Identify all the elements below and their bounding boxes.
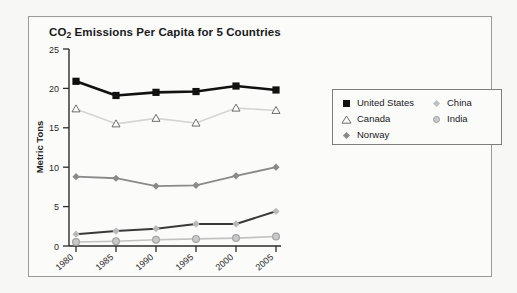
legend-item-india[interactable]: India — [431, 111, 472, 126]
x-tick-label-1980: 1980 — [54, 252, 76, 273]
data-point — [232, 220, 239, 227]
legend-item-united-states[interactable]: United States — [341, 95, 414, 110]
x-axis-ticks — [76, 246, 276, 252]
data-point — [112, 175, 119, 182]
data-point — [152, 89, 159, 96]
series-line — [76, 81, 276, 95]
series-line — [76, 237, 276, 243]
data-point — [152, 183, 159, 190]
x-axis-tick-labels: 1980 1985 1990 1995 2000 2005 — [54, 252, 276, 273]
data-point — [152, 225, 159, 232]
data-point — [153, 236, 160, 243]
y-tick-label-0: 0 — [54, 242, 59, 252]
data-point — [192, 220, 199, 227]
data-point — [233, 235, 240, 242]
x-tick-label-1985: 1985 — [94, 252, 116, 273]
legend-label-china: China — [447, 98, 472, 108]
y-axis-ticks — [63, 49, 69, 246]
x-tick-label-1990: 1990 — [134, 252, 156, 273]
legend-item-canada[interactable]: Canada — [341, 111, 414, 126]
y-tick-label-10: 10 — [49, 163, 59, 173]
data-point — [113, 238, 120, 245]
legend-label-norway: Norway — [357, 130, 389, 140]
ringed-circle-icon — [431, 113, 443, 125]
y-tick-label-15: 15 — [49, 123, 59, 133]
series-united-states — [72, 78, 279, 99]
data-point — [272, 208, 279, 215]
chart-legend: United States Canada — [332, 89, 502, 145]
diamond-icon-norway — [341, 129, 353, 141]
data-point — [232, 82, 239, 89]
data-point — [73, 239, 80, 246]
chart-card: CO2 Emissions Per Capita for 5 Countries… — [28, 16, 492, 277]
x-tick-label-1995: 1995 — [174, 252, 196, 273]
y-axis-title: Metric Tons — [34, 121, 45, 174]
y-tick-label-25: 25 — [49, 45, 59, 55]
data-point — [72, 78, 79, 85]
y-tick-label-5: 5 — [54, 202, 59, 212]
legend-item-china[interactable]: China — [431, 95, 472, 110]
y-axis-tick-labels: 0 5 10 15 20 25 — [49, 45, 59, 252]
data-point — [72, 105, 80, 112]
series-line — [76, 211, 276, 234]
legend-item-norway[interactable]: Norway — [341, 127, 414, 142]
chart-plot-area: 0 5 10 15 20 25 Metric Tons 1980 — [29, 17, 493, 278]
series-norway — [72, 164, 279, 190]
diamond-icon-china — [431, 97, 443, 109]
data-point — [272, 164, 279, 171]
data-point — [193, 236, 200, 243]
data-point — [72, 173, 79, 180]
x-tick-label-2000: 2000 — [214, 252, 236, 273]
data-series-layer — [72, 78, 280, 246]
y-tick-label-20: 20 — [49, 84, 59, 94]
page-background: CO2 Emissions Per Capita for 5 Countries… — [0, 0, 517, 293]
x-tick-label-2005: 2005 — [254, 252, 276, 273]
series-china — [72, 208, 279, 238]
data-point — [192, 182, 199, 189]
legend-label-united-states: United States — [357, 98, 414, 108]
legend-column-right: China India — [431, 95, 472, 127]
filled-square-icon — [341, 97, 353, 109]
data-point — [152, 114, 160, 121]
data-point — [192, 88, 199, 95]
legend-label-india: India — [447, 114, 468, 124]
data-point — [272, 86, 279, 93]
data-point — [112, 92, 119, 99]
data-point — [273, 233, 280, 240]
series-line — [76, 167, 276, 186]
open-triangle-icon — [341, 113, 353, 125]
series-line — [76, 108, 276, 124]
legend-column-left: United States Canada — [341, 95, 414, 143]
series-canada — [72, 104, 280, 127]
data-point — [232, 172, 239, 179]
data-point — [72, 231, 79, 238]
series-india — [73, 233, 280, 245]
data-point — [112, 227, 119, 234]
legend-label-canada: Canada — [357, 114, 390, 124]
